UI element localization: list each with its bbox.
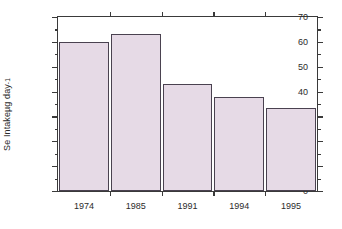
bar-1985 xyxy=(111,34,161,191)
y-axis-tick-minor-right xyxy=(317,104,321,105)
y-axis-tick-minor xyxy=(55,79,59,80)
x-axis-tick-top xyxy=(162,12,163,17)
x-axis-tick xyxy=(162,191,163,196)
y-axis-tick-label: 70 xyxy=(298,12,308,22)
x-axis-tick-top xyxy=(110,12,111,17)
y-axis-tick-minor xyxy=(55,104,59,105)
bar-1974 xyxy=(59,42,109,191)
y-axis-tick-minor xyxy=(55,154,59,155)
y-axis-title: Se Intake µg day-1 xyxy=(0,0,14,229)
bar-1994 xyxy=(214,97,264,191)
y-axis-tick-major xyxy=(52,116,58,117)
x-axis-tick-top xyxy=(265,12,266,17)
y-axis-tick-minor-right xyxy=(317,29,321,30)
bar-1991 xyxy=(163,84,213,191)
x-axis-tick xyxy=(213,191,214,196)
y-axis-tick-major-right xyxy=(317,166,323,167)
x-axis-tick-label: 1974 xyxy=(74,201,94,211)
y-axis-tick-major xyxy=(52,42,58,43)
y-axis-tick-minor-right xyxy=(317,54,321,55)
y-axis-tick-major-right xyxy=(317,42,323,43)
x-axis-tick xyxy=(265,191,266,196)
y-axis-tick-major-right xyxy=(317,67,323,68)
y-axis-title-text: Se Intake xyxy=(2,112,12,151)
x-axis-tick xyxy=(110,191,111,196)
y-axis-tick-major-right xyxy=(317,116,323,117)
plot-area: 01020304050607019741985199119941995 xyxy=(57,16,318,192)
y-axis-tick-minor xyxy=(55,29,59,30)
y-axis-tick-label: 40 xyxy=(298,87,308,97)
y-axis-tick-major xyxy=(52,17,58,18)
y-axis-tick-minor xyxy=(55,129,59,130)
y-axis-tick-label: 50 xyxy=(298,62,308,72)
y-axis-tick-major-right xyxy=(317,92,323,93)
y-axis-tick-minor xyxy=(55,179,59,180)
y-axis-tick-minor xyxy=(55,54,59,55)
x-axis-tick-top xyxy=(213,12,214,17)
y-axis-tick-minor-right xyxy=(317,129,321,130)
y-axis-tick-major-right xyxy=(317,191,323,192)
y-axis-tick-minor-right xyxy=(317,79,321,80)
bar-1995 xyxy=(266,108,316,191)
x-axis-tick-label: 1995 xyxy=(281,201,301,211)
y-axis-tick-major xyxy=(52,92,58,93)
x-axis-tick-label: 1994 xyxy=(229,201,249,211)
y-axis-tick-major xyxy=(52,166,58,167)
y-axis-tick-major xyxy=(52,67,58,68)
y-axis-title-unit: µg day xyxy=(2,84,12,112)
y-axis-tick-major-right xyxy=(317,141,323,142)
y-axis-tick-major-right xyxy=(317,17,323,18)
x-axis-tick-label: 1985 xyxy=(126,201,146,211)
x-axis-tick-label: 1991 xyxy=(177,201,197,211)
y-axis-tick-minor-right xyxy=(317,179,321,180)
chart-figure: Se Intake µg day-1 010203040506070197419… xyxy=(0,0,342,229)
y-axis-tick-major xyxy=(52,191,58,192)
y-axis-tick-major xyxy=(52,141,58,142)
y-axis-title-exponent: -1 xyxy=(4,78,11,84)
y-axis-tick-label: 60 xyxy=(298,37,308,47)
y-axis-tick-minor-right xyxy=(317,154,321,155)
